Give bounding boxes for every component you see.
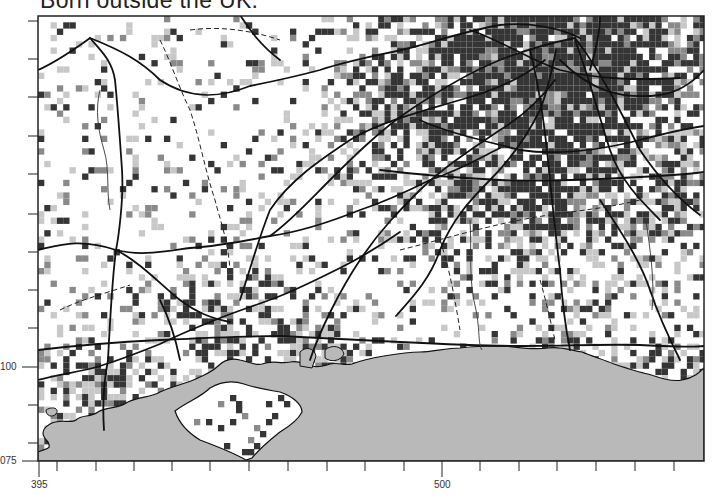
x-axis-label-500: 500 <box>434 479 451 490</box>
choropleth-map <box>0 0 712 499</box>
x-axis-label-395: 395 <box>31 479 48 490</box>
harbour <box>46 408 57 416</box>
y-axis-label-075: 075 <box>0 455 17 466</box>
y-axis-label-100: 100 <box>0 361 17 372</box>
